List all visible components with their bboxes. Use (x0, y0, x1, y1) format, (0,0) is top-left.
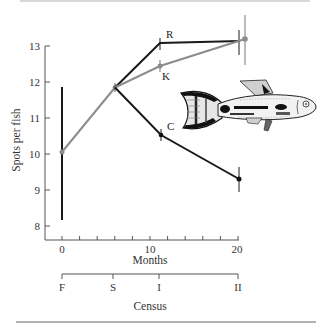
x-axis-title: Months (132, 254, 168, 266)
y-tick-label: 12 (29, 76, 40, 88)
y-axis: 8 9 10 11 12 13 Spots per fish (10, 40, 50, 240)
data-point (242, 36, 248, 42)
y-tick-label: 11 (29, 112, 40, 124)
x-axis: 0 10 20 Months (45, 236, 243, 266)
data-point (158, 64, 163, 69)
census-axis: F S I II Census (59, 274, 242, 312)
cropped-caption-remnant (20, 0, 310, 2)
census-tick-label: S (110, 281, 116, 293)
y-tick-label: 13 (29, 40, 41, 52)
x-tick-label: 0 (59, 243, 65, 255)
series-label-K: K (162, 70, 170, 82)
series-label-C: C (167, 120, 174, 132)
chart: 8 9 10 11 12 13 Spots per fish 0 10 20 M… (0, 0, 330, 328)
y-axis-title: Spots per fish (10, 108, 23, 172)
data-point (237, 177, 242, 182)
shared-start-series (60, 83, 118, 220)
y-tick-label: 8 (35, 220, 41, 232)
census-axis-title: Census (133, 300, 167, 312)
y-tick-label: 10 (29, 148, 41, 160)
census-tick-label: F (59, 281, 65, 293)
census-tick-label: I (157, 281, 161, 293)
data-point (159, 133, 164, 138)
guppy-fish-illustration (181, 80, 316, 131)
census-tick-label: II (234, 281, 242, 293)
x-tick-label: 20 (232, 243, 244, 255)
data-point (60, 150, 65, 155)
series-label-R: R (166, 28, 174, 40)
series-K: K (115, 15, 248, 88)
y-tick-label: 9 (35, 184, 41, 196)
